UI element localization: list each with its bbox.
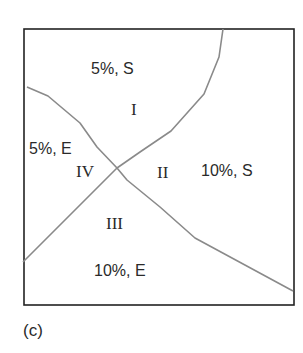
region-bottom-numeral: III <box>106 215 123 232</box>
region-diagram <box>0 0 303 353</box>
boundary-descending-curve <box>27 87 293 291</box>
diagram-figure: 5%, S I 5%, E IV II 10%, S III 10%, E (c… <box>0 0 303 353</box>
region-bottom-label: 10%, E <box>94 263 146 279</box>
region-top-numeral: I <box>131 101 137 118</box>
region-left-label: 5%, E <box>29 141 72 157</box>
region-top-label: 5%, S <box>91 61 134 77</box>
figure-caption: (c) <box>23 322 43 339</box>
region-right-label: 10%, S <box>201 163 253 179</box>
region-left-numeral: IV <box>76 163 94 180</box>
region-right-numeral: II <box>157 164 168 181</box>
